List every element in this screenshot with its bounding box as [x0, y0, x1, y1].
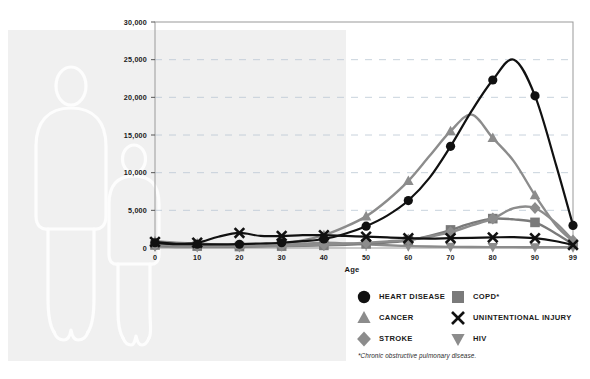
y-tick-label: 10,000	[124, 168, 147, 177]
y-tick-label: 15,000	[124, 131, 147, 140]
x-tick-label: 90	[531, 253, 539, 262]
legend-item-label: STROKE	[379, 334, 413, 343]
legend-item-label: UNINTENTIONAL INJURY	[473, 313, 572, 322]
y-tick-label: 30,000	[124, 18, 147, 27]
data-point-marker	[150, 238, 159, 247]
square-marker-icon	[450, 289, 466, 305]
data-point-marker	[451, 333, 464, 345]
circle-marker-icon	[356, 289, 372, 305]
data-point-marker	[568, 221, 577, 230]
data-point-marker	[193, 240, 202, 249]
plot-frame	[151, 22, 573, 251]
legend-item-copd[interactable]: COPD*	[450, 286, 582, 307]
x-axis-tick-labels: 010203040506070809099	[153, 253, 577, 262]
legend-item-unintentional-injury[interactable]: UNINTENTIONAL INJURY	[450, 307, 582, 328]
x-tick-label: 30	[277, 253, 285, 262]
data-point-marker	[357, 311, 370, 323]
x-tick-label: 70	[446, 253, 454, 262]
x-axis-title: Age	[344, 265, 359, 274]
data-point-marker	[361, 211, 372, 221]
triangle-down-marker-icon	[450, 331, 466, 347]
diamond-marker-icon	[356, 331, 372, 347]
data-point-marker	[530, 218, 540, 228]
x-marker-icon	[450, 310, 466, 326]
x-tick-label: 0	[153, 253, 157, 262]
y-tick-label: 25,000	[124, 55, 147, 64]
x-tick-label: 50	[362, 253, 370, 262]
legend-footnote: *Chronic obstructive pulmonary disease.	[358, 352, 476, 359]
data-point-marker	[488, 75, 497, 84]
x-tick-label: 99	[569, 253, 577, 262]
data-point-marker	[357, 331, 371, 346]
data-point-marker	[277, 238, 286, 247]
legend-item-label: HEART DISEASE	[379, 292, 445, 301]
x-tick-label: 20	[235, 253, 243, 262]
legend-item-label: CANCER	[379, 313, 414, 322]
grid-lines	[155, 60, 573, 211]
y-tick-label: 5,000	[128, 206, 147, 215]
data-point-marker	[452, 312, 464, 324]
x-tick-label: 60	[404, 253, 412, 262]
y-tick-label: 20,000	[124, 93, 147, 102]
chart-page: 05,00010,00015,00020,00025,00030,000 010…	[0, 0, 590, 379]
legend-item-cancer[interactable]: CANCER	[356, 307, 448, 328]
x-tick-label: 40	[320, 253, 328, 262]
y-axis-tick-labels: 05,00010,00015,00020,00025,00030,000	[124, 18, 147, 253]
x-tick-label: 10	[193, 253, 201, 262]
data-point-marker	[362, 222, 371, 231]
data-point-marker	[446, 142, 455, 151]
data-point-marker	[529, 202, 540, 214]
legend-item-label: COPD*	[473, 292, 500, 301]
data-series-layer	[149, 59, 578, 252]
legend-item-stroke[interactable]: STROKE	[356, 328, 448, 349]
data-point-marker	[404, 196, 413, 205]
x-tick-label: 80	[489, 253, 497, 262]
legend-item-label: HIV	[473, 334, 487, 343]
chart-legend: HEART DISEASECOPD*CANCERUNINTENTIONAL IN…	[356, 286, 582, 349]
data-point-marker	[358, 290, 370, 302]
data-point-marker	[452, 291, 464, 303]
data-point-marker	[235, 240, 244, 249]
data-point-marker	[530, 91, 539, 100]
y-tick-label: 0	[143, 244, 147, 253]
legend-item-hiv[interactable]: HIV	[450, 328, 582, 349]
legend-item-heart-disease[interactable]: HEART DISEASE	[356, 286, 448, 307]
data-point-marker	[319, 234, 328, 243]
triangle-up-marker-icon	[356, 310, 372, 326]
